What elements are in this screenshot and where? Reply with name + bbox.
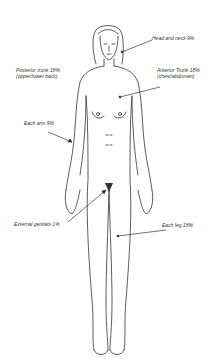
label-each-leg: Each leg 18%: [162, 222, 193, 228]
label-each-arm: Each arm 9%: [24, 120, 54, 126]
label-head-neck: Head and neck 9%: [152, 35, 194, 41]
human-body-outline: [0, 0, 213, 360]
rule-of-nines-diagram: Head and neck 9% Posterior trunk 18% (up…: [0, 0, 213, 360]
label-external-genitals: External genitals 1%: [14, 221, 60, 227]
label-posterior-trunk-line2: (upper/lower back): [16, 73, 57, 79]
label-anterior-trunk-line2: (chest/abdomen): [157, 73, 195, 79]
